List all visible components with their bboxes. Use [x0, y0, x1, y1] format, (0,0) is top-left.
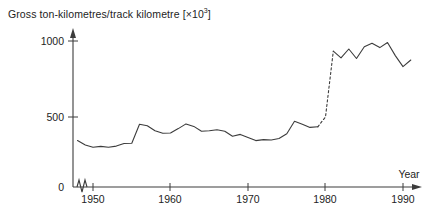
x-tick-label-1960: 1960: [158, 193, 182, 205]
x-axis-break-zigzag: [77, 180, 87, 192]
x-axis-label: Year: [398, 168, 420, 180]
chart-container: Gross ton-kilometres/track kilometre [×1…: [0, 0, 430, 223]
y-tick-label-1000: 1000: [41, 35, 65, 47]
x-tick-label-1970: 1970: [236, 193, 260, 205]
y-tick-label-500: 500: [46, 111, 64, 123]
y-tick-label-0: 0: [58, 181, 64, 193]
y-axis: [68, 28, 78, 187]
series-line-post-break: [333, 43, 411, 67]
series-line-dashed-break: [318, 51, 334, 127]
y-axis-arrowhead: [70, 28, 76, 38]
chart-svg: 1000 500 0 1950 1960 1970 1980 1990 Year: [0, 0, 430, 223]
x-axis-arrowhead: [412, 184, 422, 190]
x-axis: [73, 180, 422, 192]
series-line-pre-break: [78, 121, 318, 147]
x-tick-label-1980: 1980: [313, 193, 337, 205]
x-tick-label-1990: 1990: [391, 193, 415, 205]
x-tick-label-1950: 1950: [81, 193, 105, 205]
